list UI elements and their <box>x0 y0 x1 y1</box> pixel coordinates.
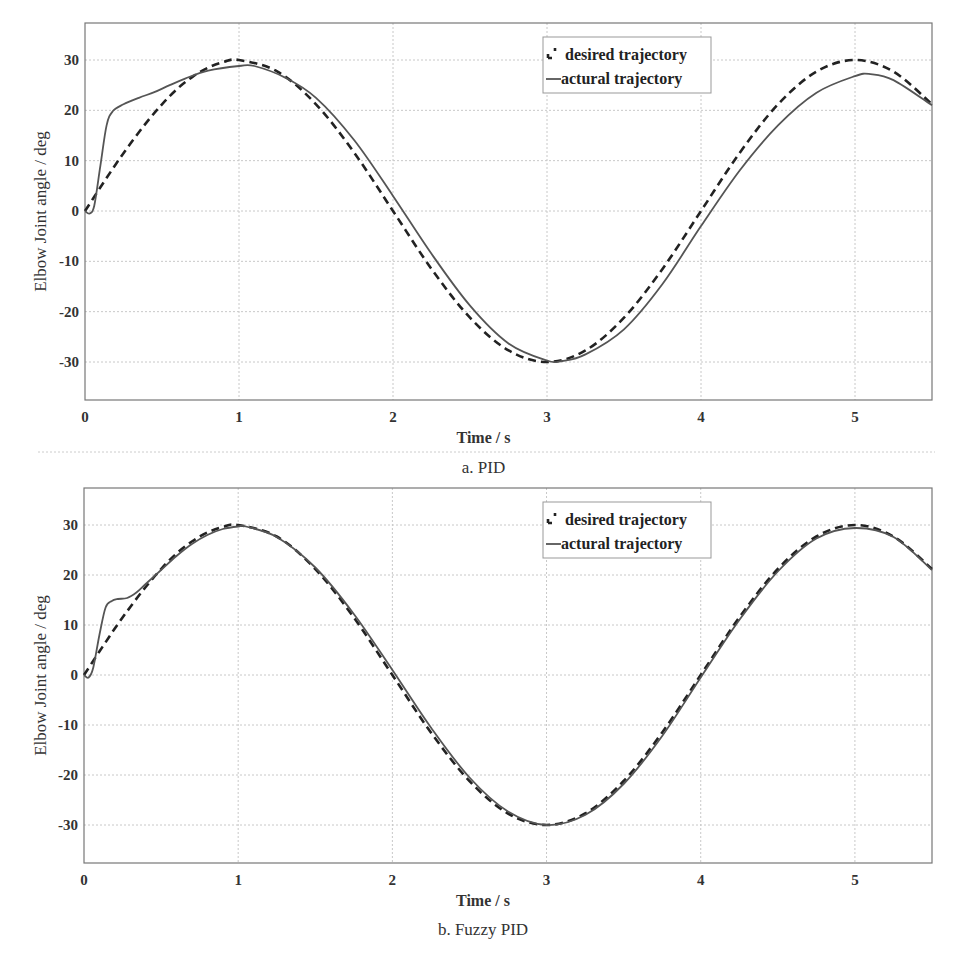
y-axis-label: Elbow Joint angle / deg <box>31 131 50 292</box>
figure: -30-20-100102030 012345 desired trajecto… <box>0 0 958 968</box>
figure-caption: b. Fuzzy PID <box>438 920 528 939</box>
x-tick-label: 4 <box>697 872 705 888</box>
actual-trajectory-line <box>85 65 932 362</box>
x-axis-label: Time / s <box>456 892 510 909</box>
x-tick-labels: 012345 <box>80 872 858 888</box>
y-tick-label: -20 <box>59 304 79 320</box>
legend-label-actual: actural trajectory <box>561 535 682 553</box>
x-tick-label: 0 <box>81 409 89 425</box>
y-axis-label: Elbow Joint angle / deg <box>31 595 50 756</box>
y-tick-label: -10 <box>58 717 78 733</box>
x-tick-label: 3 <box>543 409 551 425</box>
y-tick-label: 0 <box>72 203 80 219</box>
legend: desired trajectory actural trajectory <box>543 502 711 558</box>
x-tick-label: 2 <box>389 872 397 888</box>
y-tick-labels: -30-20-100102030 <box>58 517 78 833</box>
legend-label-desired: desired trajectory <box>565 46 687 64</box>
y-tick-label: 30 <box>63 517 78 533</box>
y-tick-label: 30 <box>64 52 79 68</box>
legend: desired trajectory actural trajectory <box>543 37 711 93</box>
figure-caption: a. PID <box>462 458 505 477</box>
x-tick-label: 1 <box>234 872 242 888</box>
legend-label-actual: actural trajectory <box>561 70 682 88</box>
x-tick-label: 2 <box>389 409 397 425</box>
x-tick-label: 3 <box>543 872 551 888</box>
y-tick-label: -20 <box>58 767 78 783</box>
x-tick-label: 1 <box>235 409 243 425</box>
y-tick-label: 20 <box>64 102 79 118</box>
x-tick-label: 5 <box>851 872 859 888</box>
x-tick-label: 4 <box>697 409 705 425</box>
desired-trajectory-line <box>85 59 932 362</box>
y-tick-label: -30 <box>58 817 78 833</box>
y-tick-label: -10 <box>59 253 79 269</box>
y-tick-labels: -30-20-100102030 <box>59 52 79 370</box>
x-axis-label: Time / s <box>457 429 511 446</box>
y-tick-label: 20 <box>63 567 78 583</box>
y-tick-label: 10 <box>64 153 79 169</box>
y-tick-label: -30 <box>59 354 79 370</box>
chart-panel-pid: -30-20-100102030 012345 desired trajecto… <box>31 23 932 477</box>
chart-panel-fuzzy-pid: -30-20-100102030 012345 desired trajecto… <box>31 488 932 939</box>
x-tick-labels: 012345 <box>81 409 859 425</box>
y-tick-label: 10 <box>63 617 78 633</box>
x-tick-label: 5 <box>851 409 859 425</box>
legend-label-desired: desired trajectory <box>565 511 687 529</box>
x-tick-label: 0 <box>80 872 88 888</box>
y-tick-label: 0 <box>71 667 79 683</box>
